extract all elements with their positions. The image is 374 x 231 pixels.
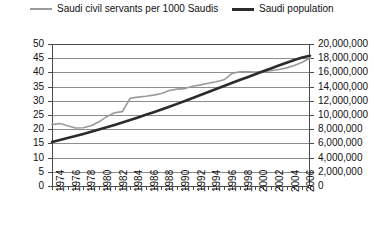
series-line-population	[52, 56, 310, 142]
chart-container: Saudi civil servants per 1000 Saudis Sau…	[0, 0, 374, 231]
series-layer	[0, 0, 374, 231]
